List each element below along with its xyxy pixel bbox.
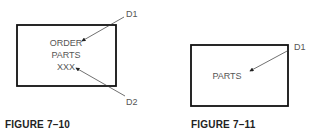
diagram-canvas: ORDER PARTS XXX D1 D2 PARTS D1	[0, 0, 316, 133]
callout-d2: D2	[126, 97, 138, 107]
leader-d1	[82, 17, 124, 41]
box-text-line-1: ORDER	[50, 38, 83, 48]
figure-7-11-caption: FIGURE 7–11	[191, 119, 255, 130]
leader-d2	[76, 68, 125, 96]
callout-d1: D1	[294, 42, 306, 52]
leader-d1	[250, 50, 289, 71]
box-text-line-3: XXX	[57, 62, 75, 72]
box-text-line-1: PARTS	[212, 71, 241, 81]
figure-7-10-caption: FIGURE 7–10	[5, 119, 70, 130]
callout-d1: D1	[126, 9, 138, 19]
figure-7-10-drawing: ORDER PARTS XXX D1 D2	[17, 9, 138, 107]
box-text-line-2: PARTS	[51, 50, 80, 60]
figure-7-11-drawing: PARTS D1	[191, 42, 306, 106]
